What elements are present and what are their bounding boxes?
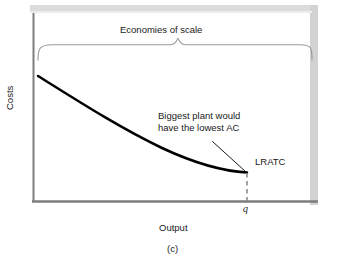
economies-of-scale-figure: Economies of scale Biggest plant wouldha…: [0, 0, 342, 266]
annotation-line-1: Biggest plant would: [158, 110, 240, 121]
lratc-curve-label: LRATC: [255, 156, 285, 167]
annotation-line-2: have the lowest AC: [158, 122, 239, 133]
economies-of-scale-label: Economies of scale: [120, 24, 202, 35]
right-shadow-band: [310, 5, 318, 205]
y-axis-title: Costs: [4, 86, 15, 110]
x-axis-tick-label-q: q: [243, 203, 248, 214]
x-axis-title: Output: [159, 222, 188, 233]
top-shadow-fade: [30, 11, 312, 13]
economies-of-scale-brace-icon: [38, 39, 312, 61]
biggest-plant-annotation-label: Biggest plant wouldhave the lowest AC: [158, 110, 240, 133]
figure-caption: (c): [167, 243, 178, 254]
